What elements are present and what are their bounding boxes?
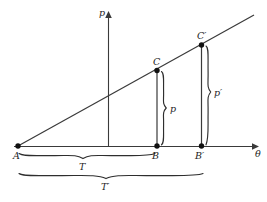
point-b-prime-label: B′ (195, 151, 204, 161)
point-b-dot (154, 143, 159, 148)
brace-p-label: p (170, 104, 176, 114)
point-c-dot (154, 68, 159, 73)
point-a-dot (15, 143, 20, 148)
brace-p (162, 72, 167, 145)
brace-t-prime-label: T′ (101, 182, 110, 192)
theta-axis-label: θ (255, 149, 261, 159)
point-c-label: C (153, 57, 160, 67)
brace-t-prime (19, 174, 203, 179)
point-b-prime-dot (199, 143, 204, 148)
point-c-prime-dot (199, 42, 204, 47)
point-a-label: A (13, 151, 20, 161)
ray-line (18, 15, 254, 146)
p-axis-arrowhead (105, 11, 112, 18)
brace-t-label: T (79, 162, 85, 172)
figure-canvas: p θ A B B′ C C′ p p′ T T′ (0, 0, 267, 202)
point-c-prime-label: C′ (197, 31, 206, 41)
brace-p-prime-label: p′ (214, 88, 222, 98)
point-b-label: B (152, 151, 159, 161)
brace-t (19, 154, 155, 159)
diagram-svg (0, 0, 267, 202)
brace-p-prime (206, 46, 211, 145)
p-axis-label: p (99, 8, 105, 18)
